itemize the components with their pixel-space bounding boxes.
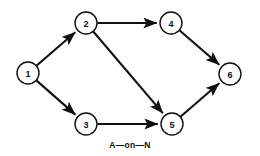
node-1[interactable]: 1 [17,62,39,84]
network-diagram-canvas: 123456 A—on—N [0,0,260,156]
edge-2-to-5 [93,32,162,113]
node-label-4: 4 [168,19,173,29]
edges-group [37,23,220,124]
diagram-caption: A—on—N [109,140,150,150]
edge-4-to-6 [180,31,220,65]
edge-1-to-3 [37,81,76,115]
node-5[interactable]: 5 [161,113,183,135]
node-2[interactable]: 2 [75,12,97,34]
node-label-1: 1 [25,69,30,79]
node-4[interactable]: 4 [160,12,182,34]
node-6[interactable]: 6 [219,63,241,85]
node-label-6: 6 [227,70,232,80]
node-label-2: 2 [83,19,88,29]
node-3[interactable]: 3 [75,113,97,135]
network-diagram: 123456 A—on—N [0,0,260,156]
node-label-3: 3 [83,120,88,130]
edge-5-to-6 [181,83,220,116]
edge-1-to-2 [37,32,76,65]
node-label-5: 5 [169,120,174,130]
